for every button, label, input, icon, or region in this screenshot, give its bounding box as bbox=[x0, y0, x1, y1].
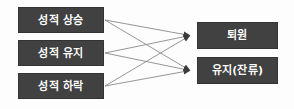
edge-grade-rise-to-discharge bbox=[105, 20, 190, 36]
node-grade-maintain[interactable]: 성적 유지 bbox=[18, 40, 104, 66]
edge-grade-maintain-to-discharge bbox=[105, 36, 190, 54]
edge-grade-decline-to-discharge bbox=[105, 36, 190, 87]
node-grade-rise[interactable]: 성적 상승 bbox=[18, 7, 104, 33]
edge-grade-rise-to-stay bbox=[105, 20, 190, 71]
edge-grade-decline-to-stay bbox=[105, 71, 190, 87]
node-discharge[interactable]: 퇴원 bbox=[197, 22, 278, 49]
flow-diagram: 성적 상승 성적 유지 성적 하락 퇴원 유지(잔류) bbox=[0, 0, 294, 109]
node-stay[interactable]: 유지(잔류) bbox=[197, 57, 278, 84]
node-grade-decline[interactable]: 성적 하락 bbox=[18, 73, 104, 99]
edge-grade-maintain-to-stay bbox=[105, 53, 190, 71]
